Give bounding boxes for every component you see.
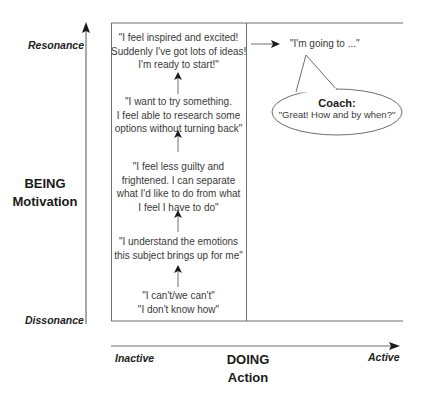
quote-less-guilty: "I feel less guilty and frightened. I ca… bbox=[111, 160, 246, 215]
dissonance-label: Dissonance bbox=[25, 314, 84, 326]
resonance-label: Resonance bbox=[28, 39, 84, 51]
quote-line: "I feel less guilty and bbox=[111, 160, 246, 174]
quote-line: "I can't/we can't" bbox=[111, 289, 246, 303]
quote-line: "I don't know how" bbox=[111, 303, 246, 317]
arrow-right-icon bbox=[251, 40, 280, 48]
doing-axis-title: DOING Action bbox=[208, 351, 288, 387]
active-label: Active bbox=[368, 351, 400, 363]
quote-line: options without turning back" bbox=[111, 122, 246, 136]
quote-line: frightened. I can separate bbox=[111, 174, 246, 188]
arrow-up-icon bbox=[174, 72, 182, 94]
quote-line: "I feel inspired and excited! bbox=[111, 31, 246, 45]
being-axis-title: BEING Motivation bbox=[9, 175, 81, 211]
quote-line: this subject brings up for me" bbox=[111, 249, 246, 263]
speech-bubble-icon bbox=[272, 55, 402, 135]
quote-line: I feel able to research some bbox=[111, 109, 246, 123]
quote-cant: "I can't/we can't" "I don't know how" bbox=[111, 289, 246, 316]
quote-line: I'm ready to start!" bbox=[111, 58, 246, 72]
quote-line: what I'd like to do from what bbox=[111, 187, 246, 201]
quote-line: "I want to try something. bbox=[111, 95, 246, 109]
action-statement: "I'm going to ..." bbox=[290, 38, 360, 49]
coach-response: "Great! How and by when?" bbox=[272, 109, 402, 120]
quote-understand-emotions: "I understand the emotions this subject … bbox=[111, 235, 246, 262]
coach-title: Coach: bbox=[272, 97, 402, 109]
horizontal-axis bbox=[111, 342, 400, 350]
motivation-action-diagram: Resonance Dissonance BEING Motivation In… bbox=[0, 0, 422, 396]
doing-title: DOING bbox=[208, 351, 288, 369]
quote-line: "I understand the emotions bbox=[111, 235, 246, 249]
quote-line: I feel I have to do" bbox=[111, 201, 246, 215]
quote-want-to-try: "I want to try something. I feel able to… bbox=[111, 95, 246, 136]
coach-bubble-text: Coach: "Great! How and by when?" bbox=[272, 97, 402, 120]
being-title: BEING bbox=[9, 175, 81, 193]
action-title: Action bbox=[208, 369, 288, 387]
arrow-up-icon bbox=[174, 265, 182, 287]
vertical-axis bbox=[82, 22, 90, 324]
inactive-label: Inactive bbox=[115, 352, 154, 364]
quote-inspired: "I feel inspired and excited! Suddenly I… bbox=[111, 31, 246, 72]
quote-line: Suddenly I've got lots of ideas! bbox=[111, 45, 246, 59]
motivation-title: Motivation bbox=[9, 193, 81, 211]
